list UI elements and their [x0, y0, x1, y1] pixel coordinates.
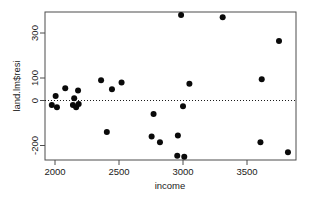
x-tick-label: 3000: [172, 166, 193, 177]
data-point: [180, 103, 186, 109]
data-point: [157, 139, 163, 145]
data-point: [259, 76, 265, 82]
data-point: [104, 129, 110, 135]
data-point: [75, 87, 81, 93]
data-point: [71, 95, 77, 101]
data-point: [257, 139, 263, 145]
data-point: [175, 132, 181, 138]
data-point: [151, 111, 157, 117]
y-tick-label: -200: [29, 136, 40, 155]
data-point: [54, 104, 60, 110]
data-point: [186, 81, 192, 87]
data-point: [285, 149, 291, 155]
plot-canvas: -2000100300 2000250030003500 income land…: [0, 0, 311, 203]
data-point: [53, 93, 59, 99]
y-tick-label: 100: [29, 70, 40, 86]
x-tick-label: 2500: [108, 166, 129, 177]
data-point: [149, 134, 155, 140]
data-point: [178, 12, 184, 18]
scatter-plot-figure: -2000100300 2000250030003500 income land…: [0, 0, 311, 203]
data-point: [181, 154, 187, 160]
data-point: [109, 86, 115, 92]
y-tick-label: 0: [29, 98, 40, 103]
x-tick-label: 2000: [44, 166, 65, 177]
x-tick-label: 3500: [236, 166, 257, 177]
x-axis-title: income: [155, 180, 186, 191]
data-point: [174, 153, 180, 159]
data-point: [119, 80, 125, 86]
y-axis-title: land.lm$resi: [11, 60, 22, 111]
data-point: [62, 85, 68, 91]
data-point: [220, 14, 226, 20]
data-point: [76, 101, 82, 107]
data-point: [98, 77, 104, 83]
data-point: [276, 38, 282, 44]
data-point: [49, 102, 55, 108]
y-tick-label: 300: [29, 25, 40, 41]
